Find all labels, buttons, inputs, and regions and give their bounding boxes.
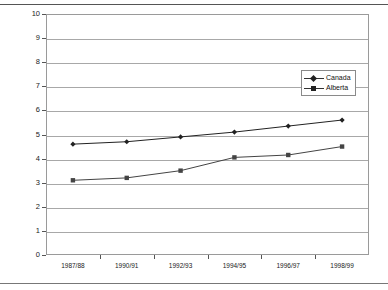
data-point-canada-2[interactable]	[178, 134, 183, 139]
x-tick-label: 1987/88	[46, 262, 100, 269]
x-tick-mark	[261, 255, 262, 259]
data-point-alberta-0[interactable]	[71, 178, 75, 182]
x-tick-label: 1998/99	[315, 262, 369, 269]
x-tick-mark	[208, 255, 209, 259]
data-point-canada-1[interactable]	[124, 139, 129, 144]
y-tick-label: 8	[0, 58, 40, 66]
y-tick-label: 4	[0, 155, 40, 163]
data-point-canada-3[interactable]	[232, 129, 237, 134]
x-tick-label: 1992/93	[154, 262, 208, 269]
data-point-canada-4[interactable]	[286, 123, 291, 128]
data-point-canada-5[interactable]	[339, 117, 344, 122]
faint-header-text	[0, 0, 388, 4]
legend-label-alberta: Alberta	[326, 83, 348, 93]
y-tick-label: 3	[0, 179, 40, 187]
x-tick-mark	[315, 255, 316, 259]
legend-item-alberta[interactable]: Alberta	[304, 83, 351, 93]
legend-label-canada: Canada	[326, 73, 351, 83]
data-point-alberta-3[interactable]	[232, 155, 236, 159]
series-layer	[46, 14, 369, 255]
y-tick-label: 10	[0, 10, 40, 18]
series-line-canada	[73, 120, 342, 144]
square-marker-icon	[304, 84, 324, 93]
legend-item-canada[interactable]: Canada	[304, 73, 351, 83]
line-chart: Percentage of Total Enrollment 012345678…	[0, 8, 388, 280]
data-point-alberta-5[interactable]	[340, 144, 344, 148]
data-point-canada-0[interactable]	[70, 142, 75, 147]
data-point-alberta-2[interactable]	[178, 168, 182, 172]
y-tick-label: 1	[0, 227, 40, 235]
series-line-alberta	[73, 147, 342, 181]
diamond-marker-icon	[304, 74, 324, 83]
y-tick-label: 7	[0, 82, 40, 90]
y-tick-label: 5	[0, 131, 40, 139]
data-point-alberta-1[interactable]	[125, 176, 129, 180]
y-tick-label: 6	[0, 106, 40, 114]
y-tick-label: 2	[0, 203, 40, 211]
x-tick-label: 1996/97	[261, 262, 315, 269]
x-tick-label: 1990/91	[100, 262, 154, 269]
y-tick-mark	[42, 255, 46, 256]
page-bottom-rule	[0, 283, 388, 284]
y-tick-label: 9	[0, 34, 40, 42]
legend: Canada Alberta	[301, 70, 356, 96]
x-tick-label: 1994/95	[208, 262, 262, 269]
data-point-alberta-4[interactable]	[286, 153, 290, 157]
page-top-rule	[0, 4, 388, 5]
y-tick-label: 0	[0, 251, 40, 259]
x-tick-mark	[100, 255, 101, 259]
x-tick-mark	[154, 255, 155, 259]
